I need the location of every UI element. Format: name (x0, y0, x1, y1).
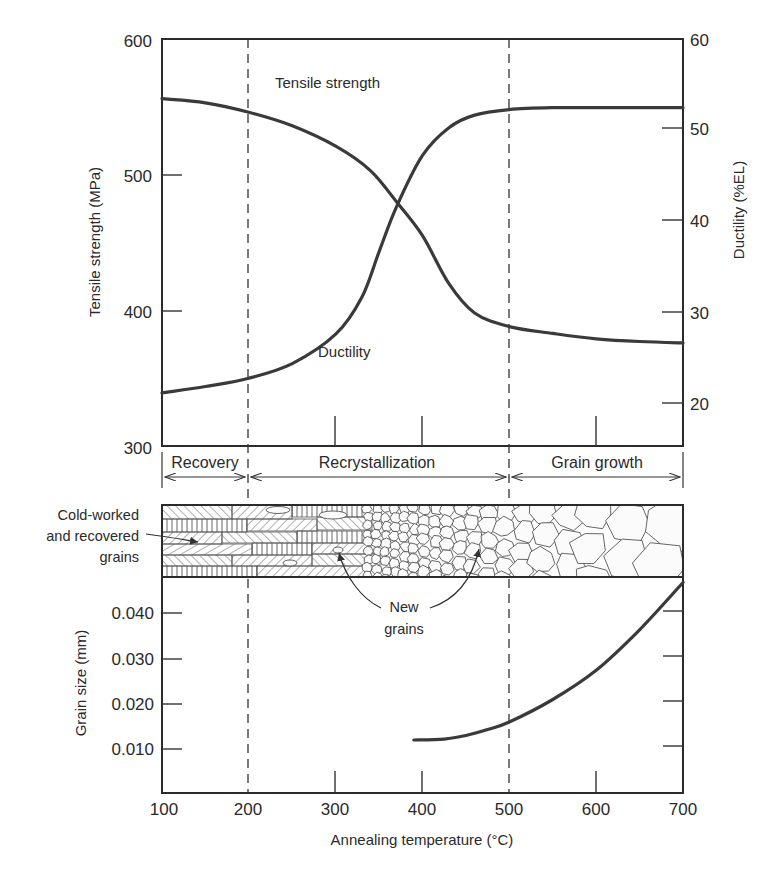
x-tick-100: 100 (150, 800, 178, 819)
left-tick-300: 300 (124, 439, 152, 458)
right-tick-40: 40 (690, 212, 709, 231)
x-tick-300: 300 (321, 800, 349, 819)
x-tick-500: 500 (495, 800, 523, 819)
left-axis: 600 500 400 300 Tensile strength (MPa) (86, 32, 182, 458)
stage-bar: Recovery Recrystallization Grain growth (162, 452, 683, 488)
new-grains-label-2: grains (384, 621, 424, 637)
grain-tick-0.040: 0.040 (111, 604, 154, 623)
stage-grain-growth: Grain growth (551, 454, 643, 471)
cold-worked-label-2: and recovered (46, 528, 139, 544)
ductility-label: Ductility (318, 343, 371, 360)
grain-tick-0.020: 0.020 (111, 695, 154, 714)
right-tick-30: 30 (690, 304, 709, 323)
upper-chart: 600 500 400 300 Tensile strength (MPa) 6… (86, 31, 747, 792)
new-grains-label-1: New (389, 599, 419, 615)
x-tick-200: 200 (234, 800, 262, 819)
left-tick-400: 400 (124, 303, 152, 322)
grain-size-chart: 0.040 0.030 0.020 0.010 Grain size (mm) … (72, 577, 697, 848)
right-axis-title: Ductility (%EL) (730, 161, 747, 259)
annealing-figure: 600 500 400 300 Tensile strength (MPa) 6… (0, 0, 767, 881)
upper-plot-frame (162, 39, 683, 446)
left-tick-600: 600 (124, 32, 152, 51)
cold-worked-label-1: Cold-worked (58, 507, 139, 523)
tensile-strength-curve (162, 99, 683, 343)
x-tick-600: 600 (582, 800, 610, 819)
stage-recrystallization: Recrystallization (319, 454, 435, 471)
right-tick-60: 60 (690, 31, 709, 50)
ductility-curve (162, 108, 683, 393)
grain-axis-title: Grain size (mm) (72, 630, 89, 737)
grain-tick-0.030: 0.030 (111, 650, 154, 669)
left-tick-500: 500 (124, 167, 152, 186)
stage-recovery: Recovery (171, 454, 239, 471)
cold-worked-label-3: grains (100, 549, 140, 565)
right-tick-50: 50 (690, 120, 709, 139)
x-tick-400: 400 (408, 800, 436, 819)
right-axis: 60 50 40 30 20 Ductility (%EL) (662, 31, 747, 414)
grain-tick-0.010: 0.010 (111, 740, 154, 759)
tensile-strength-label: Tensile strength (275, 74, 380, 91)
grain-size-curve (414, 583, 683, 741)
right-tick-20: 20 (690, 395, 709, 414)
left-axis-title: Tensile strength (MPa) (86, 167, 103, 317)
x-tick-700: 700 (669, 800, 697, 819)
x-axis-title: Annealing temperature (°C) (331, 831, 514, 848)
